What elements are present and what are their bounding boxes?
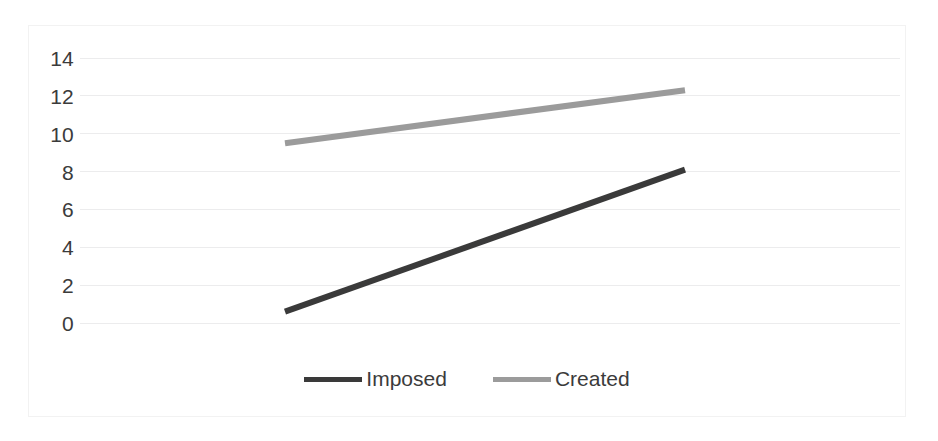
legend-label: Created xyxy=(555,368,630,390)
gridline-group xyxy=(80,58,900,323)
y-axis-tick-label: 12 xyxy=(30,86,74,107)
y-axis-tick-labels: 14121086420 xyxy=(28,25,80,417)
series-line-created[interactable] xyxy=(285,90,685,143)
series-group xyxy=(285,90,685,311)
y-axis-tick-label: 10 xyxy=(30,124,74,145)
line-chart-figure: 14121086420 ImposedCreated xyxy=(0,0,938,441)
legend-entry-imposed[interactable]: Imposed xyxy=(304,368,447,390)
chart-legend: ImposedCreated xyxy=(28,362,906,396)
legend-line-swatch-icon xyxy=(304,377,362,382)
series-line-imposed[interactable] xyxy=(285,170,685,312)
y-axis-tick-label: 0 xyxy=(30,313,74,334)
y-axis-tick-label: 4 xyxy=(30,237,74,258)
y-axis-tick-label: 14 xyxy=(30,48,74,69)
legend-line-swatch-icon xyxy=(493,377,551,382)
legend-label: Imposed xyxy=(366,368,447,390)
legend-entry-created[interactable]: Created xyxy=(493,368,630,390)
y-axis-tick-label: 6 xyxy=(30,199,74,220)
y-axis-tick-label: 2 xyxy=(30,275,74,296)
y-axis-tick-label: 8 xyxy=(30,162,74,183)
